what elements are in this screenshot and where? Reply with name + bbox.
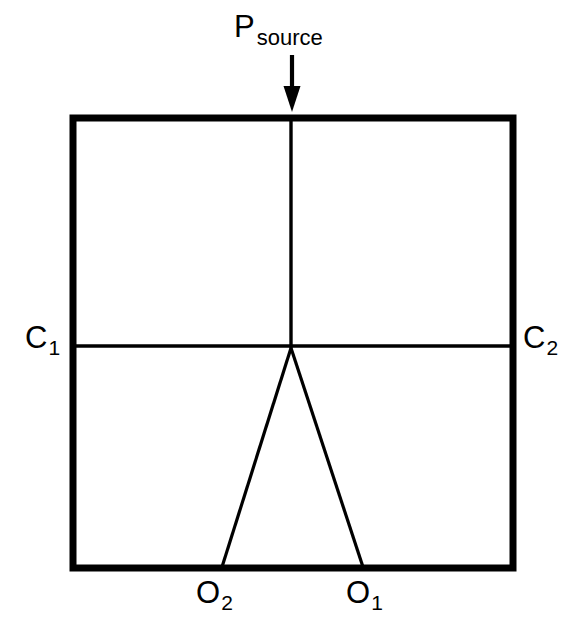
label-p-source-base: P: [234, 9, 255, 44]
label-c1: C1: [25, 322, 59, 353]
label-p-source-subscript: source: [257, 25, 323, 50]
label-c2-subscript: 2: [546, 336, 558, 359]
label-c2: C2: [523, 322, 557, 353]
label-o1-subscript: 1: [371, 591, 383, 614]
label-o1-base: O: [346, 575, 370, 610]
source-arrow-icon: [284, 55, 301, 112]
label-c2-base: C: [523, 320, 545, 355]
label-o2: O2: [196, 577, 232, 608]
label-p-source: Psource: [234, 11, 321, 42]
label-o2-base: O: [196, 575, 220, 610]
label-c1-subscript: 1: [48, 336, 60, 359]
label-o2-subscript: 2: [221, 591, 233, 614]
wedge-left-edge: [222, 348, 291, 567]
figure-canvas: [0, 0, 585, 639]
wedge-right-edge: [291, 348, 363, 567]
label-c1-base: C: [25, 320, 47, 355]
label-o1: O1: [346, 577, 382, 608]
enclosure-rectangle: [73, 118, 513, 568]
